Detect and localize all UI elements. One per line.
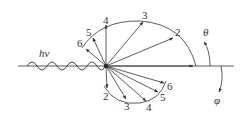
photon-label-3: 3 xyxy=(142,9,148,21)
electron-arc xyxy=(104,81,166,103)
theta-label: θ xyxy=(203,26,209,38)
photon-arrow-2 xyxy=(106,38,173,66)
photon-label-4: 4 xyxy=(103,14,109,26)
electron-label-4: 4 xyxy=(146,101,152,113)
photon-label-5: 5 xyxy=(86,26,92,38)
phi-label: φ xyxy=(214,94,220,106)
phi-angle-arrow xyxy=(219,66,222,92)
photon-label-6: 6 xyxy=(77,37,83,49)
compton-scattering-diagram: hν 2 3 4 5 6 2 3 4 5 6 θ φ xyxy=(0,0,251,118)
theta-angle-arrow xyxy=(204,42,210,66)
electron-arrow-2 xyxy=(106,66,107,88)
electron-label-5: 5 xyxy=(160,91,166,103)
photon-arrow-3 xyxy=(106,22,143,66)
electron-label-3: 3 xyxy=(124,100,130,112)
photon-label-2: 2 xyxy=(175,26,181,38)
electron-label-2: 2 xyxy=(103,90,109,102)
incident-label: hν xyxy=(39,47,50,59)
photon-arrow-5 xyxy=(93,38,106,66)
electron-label-6: 6 xyxy=(167,80,173,92)
